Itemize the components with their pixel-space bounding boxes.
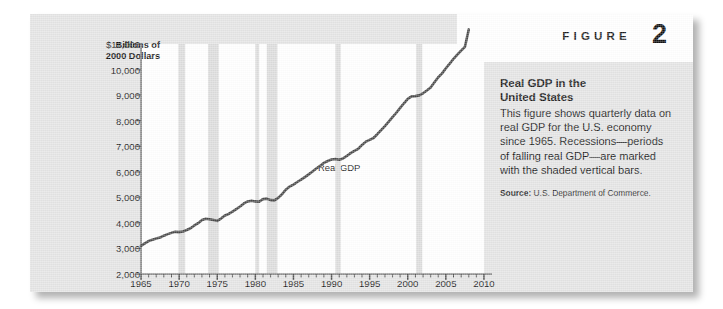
caption-body: This figure shows quarterly data on real… xyxy=(500,106,672,177)
figure-number: 2 xyxy=(652,21,667,48)
figure-label: FIGURE xyxy=(562,30,631,42)
recession-band xyxy=(178,44,185,274)
figure-card: FIGURE 2 Real GDP in the United States T… xyxy=(30,14,693,292)
caption-title-line1: Real GDP in the xyxy=(500,77,586,89)
caption-panel: Real GDP in the United States This figur… xyxy=(500,76,672,199)
figure-root: FIGURE 2 Real GDP in the United States T… xyxy=(0,0,723,309)
recession-band xyxy=(416,44,422,274)
source-text: U.S. Department of Commerce. xyxy=(531,188,651,198)
recession-band xyxy=(255,44,259,274)
recession-band xyxy=(208,44,219,274)
chart-svg xyxy=(110,40,495,290)
caption-title: Real GDP in the United States xyxy=(500,76,672,105)
caption-title-line2: United States xyxy=(500,91,574,103)
plot-area: Billions of 2000 Dollars $11,00010,0009,… xyxy=(110,40,495,290)
source-label: Source: xyxy=(500,188,531,198)
recession-band xyxy=(267,44,278,274)
caption-source: Source: U.S. Department of Commerce. xyxy=(500,188,672,199)
